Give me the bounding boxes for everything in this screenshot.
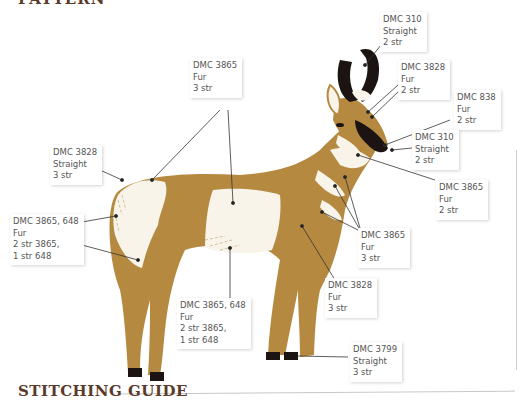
label-line: Straight — [353, 356, 397, 368]
label-rump-outline: DMC 3828 Straight 3 str — [50, 145, 102, 185]
label-line: DMC 3865, 648 — [13, 216, 79, 228]
label-line: Straight — [383, 26, 422, 38]
label-line: 3 str — [361, 253, 405, 265]
page-edge-divider — [516, 150, 517, 370]
label-ear: DMC 3828 Fur 2 str — [398, 60, 450, 100]
label-line: DMC 310 — [415, 132, 454, 144]
label-rump-fur: DMC 3865, 648 Fur 2 str 3865, 1 str 648 — [10, 214, 84, 265]
label-line: 2 str — [401, 85, 445, 97]
label-line: 3 str — [353, 367, 397, 379]
label-line: DMC 838 — [457, 92, 496, 104]
label-line: DMC 3865 — [193, 60, 237, 72]
label-line: 3 str — [53, 170, 97, 182]
label-line: DMC 3865, 648 — [180, 300, 246, 312]
label-line: Fur — [180, 312, 246, 324]
label-throat: DMC 3865 Fur 2 str — [436, 180, 488, 220]
label-line: 1 str 648 — [180, 335, 246, 347]
label-line: 2 str 3865, — [13, 239, 79, 251]
label-muzzle: DMC 838 Fur 2 str — [454, 90, 501, 130]
stitching-guide-title: STITCHING GUIDE — [18, 382, 188, 400]
label-chest: DMC 3828 Fur 3 str — [325, 278, 377, 318]
label-belly: DMC 3865, 648 Fur 2 str 3865, 1 str 648 — [177, 298, 251, 349]
label-line: Fur — [457, 104, 496, 116]
label-line: Fur — [193, 72, 237, 84]
label-line: 3 str — [193, 83, 237, 95]
label-line: Fur — [439, 194, 483, 206]
label-line: DMC 310 — [383, 14, 422, 26]
label-line: DMC 3865 — [361, 230, 405, 242]
label-line: 2 str 3865, — [180, 323, 246, 335]
label-line: Straight — [415, 144, 454, 156]
label-line: 2 str — [439, 205, 483, 217]
label-line: Fur — [361, 242, 405, 254]
label-nose: DMC 310 Straight 2 str — [412, 130, 459, 170]
label-line: 2 str — [383, 37, 422, 49]
label-back: DMC 3865 Fur 3 str — [190, 58, 242, 98]
label-line: DMC 3828 — [401, 62, 445, 74]
label-hooves: DMC 3799 Straight 3 str — [350, 342, 402, 382]
label-horn: DMC 310 Straight 2 str — [380, 12, 427, 52]
label-line: DMC 3828 — [328, 280, 372, 292]
label-line: 3 str — [328, 303, 372, 315]
label-line: DMC 3865 — [439, 182, 483, 194]
label-line: 2 str — [457, 115, 496, 127]
label-neck-bands: DMC 3865 Fur 3 str — [358, 228, 410, 268]
label-line: Straight — [53, 159, 97, 171]
label-line: 2 str — [415, 155, 454, 167]
label-line: DMC 3799 — [353, 344, 397, 356]
label-line: Fur — [401, 74, 445, 86]
label-line: 1 str 648 — [13, 251, 79, 263]
label-line: DMC 3828 — [53, 147, 97, 159]
label-line: Fur — [13, 228, 79, 240]
label-line: Fur — [328, 292, 372, 304]
